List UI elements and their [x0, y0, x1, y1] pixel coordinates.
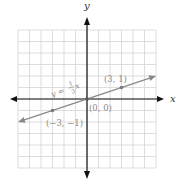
line-right-arrow-icon [148, 75, 156, 81]
equation-prefix: y = [49, 86, 66, 99]
point-origin [85, 97, 89, 101]
origin-label: (0, 0) [89, 103, 112, 113]
x-axis-right-arrow-icon [157, 96, 164, 102]
line-left-arrow-icon [18, 117, 26, 123]
coordinate-plane: y x (3, 1) (0, 0) (−3, −1) y = 1 3 x [0, 0, 180, 188]
x-axis-left-arrow-icon [10, 96, 17, 102]
y-axis-label: y [83, 0, 90, 11]
equation-numerator: 1 [68, 79, 74, 87]
point-a-label: (3, 1) [104, 74, 127, 84]
point-neg3-neg1 [51, 109, 55, 113]
x-axis-label: x [170, 93, 176, 104]
y-axis-up-arrow-icon [84, 17, 90, 25]
equation-variable: x [74, 81, 82, 91]
point-b-label: (−3, −1) [46, 118, 83, 128]
point-3-1 [120, 86, 124, 90]
y-axis-down-arrow-icon [84, 171, 90, 179]
